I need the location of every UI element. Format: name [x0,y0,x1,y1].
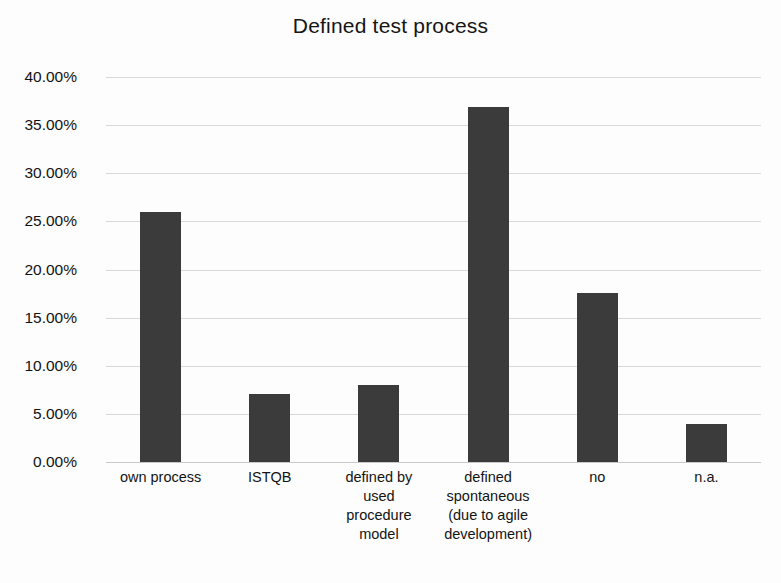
y-axis-tick-label: 10.00% [0,357,77,375]
bar[interactable] [358,385,399,462]
y-axis-tick-label: 5.00% [0,405,77,423]
x-axis-category-line: defined [434,468,542,487]
x-axis-category-label: no [543,468,651,487]
bar[interactable] [468,107,509,462]
x-axis-category-label: defined byusedproceduremodel [325,468,433,544]
chart-title: Defined test process [0,14,781,38]
x-axis-category-label: n.a. [652,468,760,487]
bar[interactable] [140,212,181,462]
x-axis-labels: own processISTQBdefined byusedprocedurem… [106,468,761,578]
bar[interactable] [249,394,290,462]
x-axis-category-line: procedure [325,506,433,525]
x-axis-category-line: defined by [325,468,433,487]
bar[interactable] [686,424,727,462]
bars-layer [106,77,761,462]
x-axis-category-line: own process [107,468,215,487]
x-axis-category-line: no [543,468,651,487]
y-axis-tick-label: 30.00% [0,164,77,182]
y-axis-tick-label: 15.00% [0,309,77,327]
y-axis-tick-label: 35.00% [0,116,77,134]
bar[interactable] [577,293,618,462]
x-axis-category-line: spontaneous [434,487,542,506]
x-axis-category-line: development) [434,525,542,544]
bar-chart: Defined test process 40.00%35.00%30.00%2… [0,0,781,583]
x-axis-category-line: model [325,525,433,544]
x-axis-category-line: (due to agile [434,506,542,525]
y-axis-tick-label: 0.00% [0,453,77,471]
x-axis-category-line: used [325,487,433,506]
x-axis-category-line: n.a. [652,468,760,487]
x-axis-category-label: own process [107,468,215,487]
y-axis-tick-label: 20.00% [0,261,77,279]
x-axis-category-label: ISTQB [216,468,324,487]
x-axis-category-label: definedspontaneous(due to agiledevelopme… [434,468,542,544]
x-axis-category-line: ISTQB [216,468,324,487]
y-axis-tick-label: 40.00% [0,68,77,86]
gridline-000 [106,462,761,463]
y-axis-tick-label: 25.00% [0,212,77,230]
